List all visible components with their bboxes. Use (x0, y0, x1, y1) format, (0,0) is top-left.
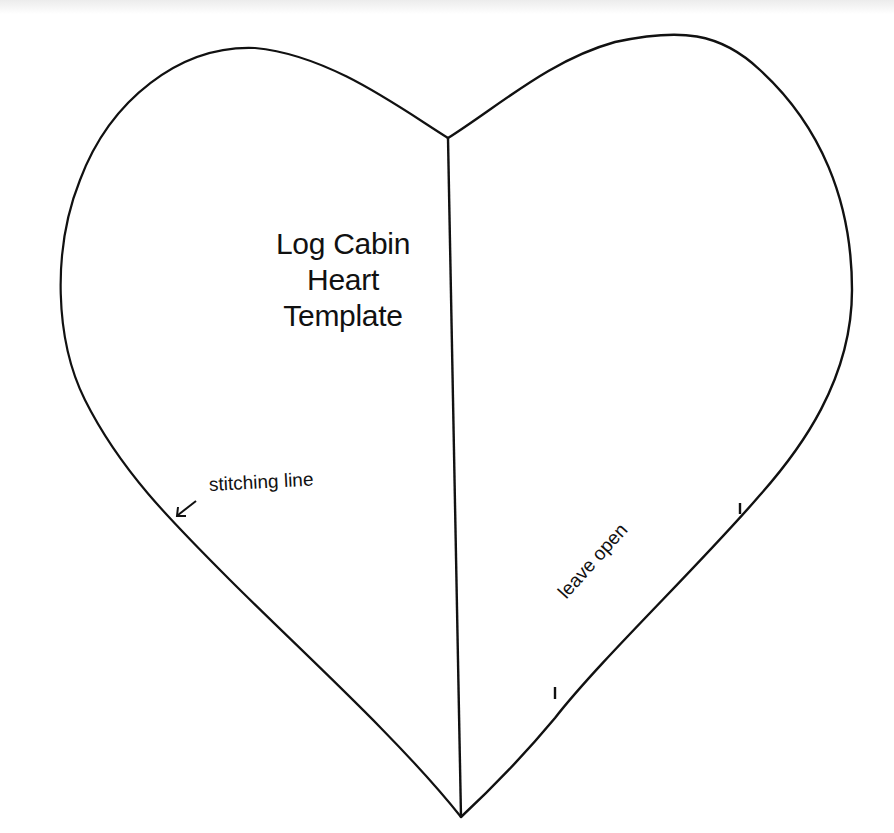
heart-outline-diagram (0, 0, 894, 833)
title-line-1: Log Cabin (228, 226, 458, 262)
arrow-icon (177, 501, 196, 516)
title-line-2: Heart (228, 262, 458, 298)
heart-right-lobe-outline (448, 35, 852, 817)
template-title: Log Cabin Heart Template (228, 226, 458, 334)
title-line-3: Template (228, 298, 458, 334)
heart-left-lobe-outline (61, 48, 461, 817)
template-page: Log Cabin Heart Template stitching line … (0, 0, 894, 833)
